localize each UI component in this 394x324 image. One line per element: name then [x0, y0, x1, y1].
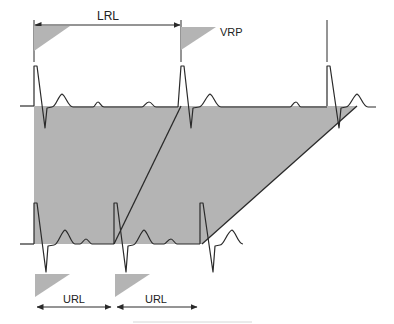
lrl-refractory-wedge [34, 26, 70, 51]
vrp-label: VRP [220, 26, 243, 38]
vrp-refractory-wedge [181, 27, 216, 50]
lrl-label: LRL [97, 9, 119, 23]
lrl-interval: LRL [34, 9, 181, 62]
pacing-timing-diagram: LRL VRP URL URL [0, 0, 394, 324]
conduction-shaded-region [34, 106, 357, 244]
url-label-1: URL [63, 293, 85, 305]
url-interval-2: URL [115, 274, 197, 307]
vrp-marker: VRP [181, 26, 243, 50]
url-interval-1: URL [35, 274, 111, 307]
url-label-2: URL [145, 293, 167, 305]
